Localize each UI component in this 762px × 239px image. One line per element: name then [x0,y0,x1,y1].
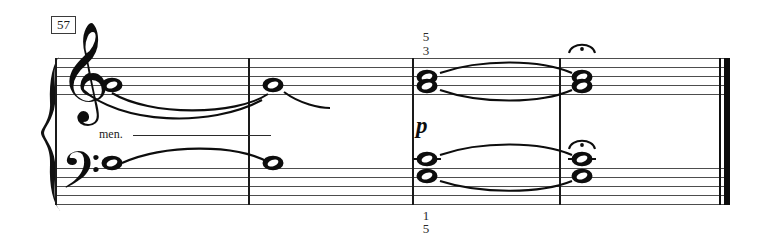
sheet-music-page: 57 𝄞 𝄢 [0,0,762,239]
barline-2 [412,58,414,205]
note-treble-m2 [262,77,284,97]
bass-staff-line-3 [55,186,729,187]
treble-staff-line-2 [55,85,729,86]
note-bass-m1 [101,155,123,175]
note-bass-m4-lower [571,168,593,188]
note-bass-m2 [262,155,284,175]
slur-bass-m1-m2 [122,149,268,163]
final-barline-thick [724,58,730,205]
tie-bass-m3-m4-upper [440,145,572,156]
treble-staff-line-4 [55,67,729,68]
treble-staff-line-3 [55,76,729,77]
bass-clef-icon: 𝄢 [61,146,101,208]
note-bass-m3-lower [416,168,438,188]
fingering-treble-above-upper: 5 [418,30,434,44]
bass-staff-line-2 [55,195,729,196]
direction-extension-line [133,135,271,136]
fingering-bass-below-lower: 5 [418,222,434,236]
treble-clef-icon: 𝄞 [59,28,110,114]
barline-1 [248,58,250,205]
note-treble-m1 [101,77,123,97]
tie-treble-m1-m2 [112,93,268,110]
bass-staff-line-5 [55,168,729,169]
dynamic-piano: p [416,114,428,137]
barline-3 [559,58,561,205]
treble-staff-line-5 [55,58,729,59]
system-start-barline [55,58,57,205]
bass-staff-line-4 [55,177,729,178]
tie-treble-m3-m4-lower [440,90,572,101]
note-treble-m3-lower [416,78,438,98]
bass-staff-line-1 [55,204,729,205]
fermata-bass-icon [568,134,596,154]
direction-morendo-text: men. [99,128,123,140]
treble-staff-line-1 [55,94,729,95]
final-barline-thin [719,58,721,205]
fingering-treble-above-lower: 3 [418,44,434,58]
fermata-treble-icon [568,38,596,58]
note-treble-m4-lower [571,78,593,98]
